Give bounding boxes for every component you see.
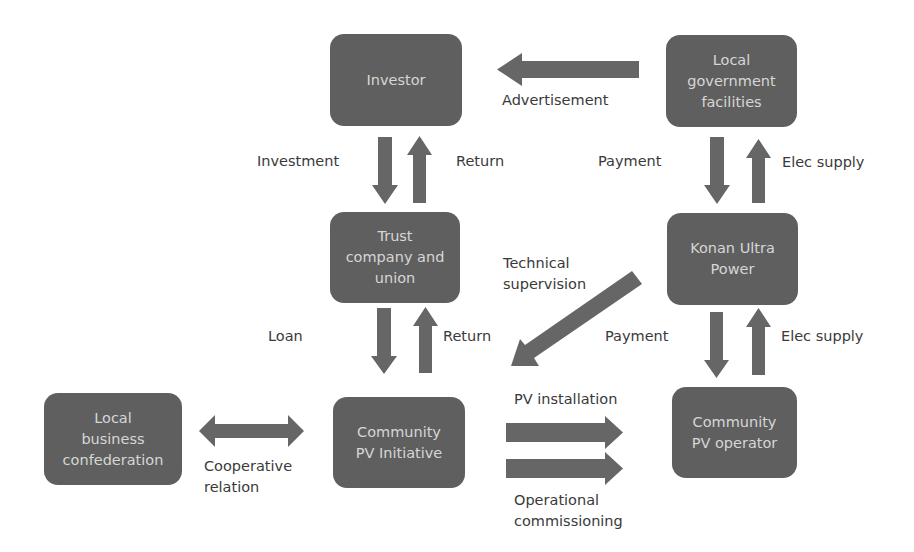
arrow-elec-supply-top bbox=[746, 139, 771, 203]
arrow-return-top bbox=[407, 136, 432, 203]
label-cooperative-relation: Cooperative relation bbox=[204, 456, 292, 498]
label-pv-installation: PV installation bbox=[514, 389, 617, 410]
label-elec-supply-top: Elec supply bbox=[782, 152, 864, 173]
label-payment-top: Payment bbox=[598, 151, 661, 172]
arrow-payment-top bbox=[704, 137, 730, 204]
label-advertisement: Advertisement bbox=[502, 90, 608, 111]
arrow-operational-commissioning bbox=[506, 452, 623, 485]
node-konan-ultra-power: Konan Ultra Power bbox=[667, 213, 798, 305]
label-loan: Loan bbox=[268, 326, 303, 347]
node-community-pv-operator: Community PV operator bbox=[672, 387, 797, 478]
arrow-cooperative-relation bbox=[199, 415, 304, 447]
arrow-elec-supply-bottom bbox=[746, 308, 771, 375]
arrow-loan bbox=[371, 308, 397, 374]
label-investment: Investment bbox=[257, 151, 339, 172]
label-elec-supply-bottom: Elec supply bbox=[781, 326, 863, 347]
label-return-top: Return bbox=[456, 151, 504, 172]
arrow-pv-installation bbox=[506, 416, 623, 449]
arrow-investment bbox=[372, 137, 398, 204]
label-return-bottom: Return bbox=[443, 326, 491, 347]
arrow-return-bottom bbox=[413, 307, 438, 373]
arrow-payment-bottom bbox=[704, 312, 729, 378]
node-trust-company-and-union: Trust company and union bbox=[330, 212, 460, 303]
label-payment-bottom: Payment bbox=[605, 326, 668, 347]
node-local-government-facilities: Local government facilities bbox=[666, 35, 797, 127]
node-community-pv-initiative: Community PV Initiative bbox=[333, 397, 465, 488]
label-technical-supervision: Technical supervision bbox=[503, 253, 586, 295]
label-operational-commissioning: Operational commissioning bbox=[514, 490, 623, 532]
node-investor: Investor bbox=[330, 34, 462, 126]
node-local-business-confederation: Local business confederation bbox=[44, 393, 182, 485]
arrow-advertisement bbox=[497, 53, 639, 86]
